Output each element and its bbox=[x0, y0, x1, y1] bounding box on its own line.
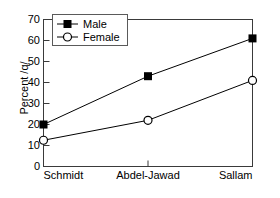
data-point bbox=[40, 136, 48, 144]
legend-label-male: Male bbox=[83, 18, 107, 30]
legend-label-female: Female bbox=[83, 31, 120, 43]
data-point bbox=[249, 76, 257, 84]
data-point bbox=[144, 116, 152, 124]
chart-figure: Percent /q/ 70 60 50 40 30 20 10 0 Schmi… bbox=[0, 0, 280, 198]
legend-marker-male-icon bbox=[64, 20, 72, 28]
data-point bbox=[144, 72, 152, 80]
plot-area bbox=[0, 0, 280, 198]
data-point bbox=[40, 121, 48, 129]
data-point bbox=[249, 34, 257, 42]
legend-marker-female-icon bbox=[64, 33, 72, 41]
